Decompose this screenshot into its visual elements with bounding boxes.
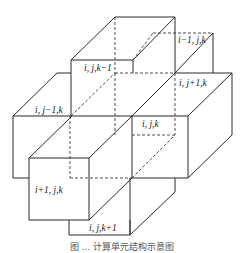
front-cell (29, 116, 132, 220)
label-center: i, j,k (142, 119, 159, 129)
label-front: i+1, j,k (35, 185, 64, 195)
figure-caption: 图 ... 计算单元结构示意图 (0, 240, 244, 253)
label-bottom: i, j,k+1 (89, 223, 117, 233)
label-left: i, j−1,k (35, 105, 64, 115)
right-cell (175, 73, 232, 178)
label-top: i, j,k−1 (84, 63, 112, 73)
label-right: i, j+1,k (179, 78, 208, 88)
label-back: i−1, j,k (178, 35, 207, 45)
center-cell (70, 73, 188, 178)
bottom-cell (69, 178, 175, 235)
